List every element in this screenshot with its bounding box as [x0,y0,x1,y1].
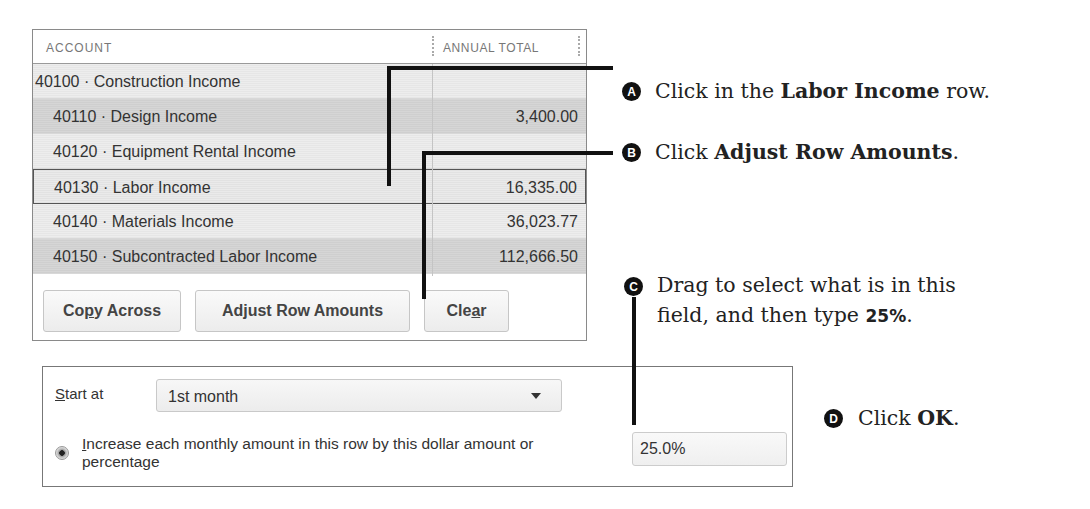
account-name: 40150 · Subcontracted Labor Income [53,248,317,266]
callout-text-c: Drag to select what is in this field, an… [657,270,956,331]
budget-grid-panel: ACCOUNT ANNUAL TOTAL 40100 · Constructio… [32,29,587,341]
start-at-label: Start at [55,385,103,402]
account-name: 40110 · Design Income [53,108,217,126]
grid-rows: 40100 · Construction Income 40110 · Desi… [33,64,586,274]
increase-radio-button[interactable] [55,446,69,460]
callout-badge-d: D [824,409,843,428]
callout-text-line: field, and then type 25%. [657,300,956,331]
callout-text-part: Click [655,140,714,164]
callout-text-a: Click in the Labor Income row. [655,76,990,106]
callout-badge-c: C [624,277,643,296]
copy-across-button[interactable]: Copy Across [43,290,181,332]
column-divider [432,64,433,276]
increase-amount-field[interactable] [632,432,787,466]
mnemonic-key: S [55,385,65,402]
annual-total: 16,335.00 [506,179,577,197]
column-header-account[interactable]: ACCOUNT [46,41,112,55]
callout-badge-a: A [622,82,641,101]
callout-bold-text: Labor Income [781,79,940,103]
mnemonic-key: p [84,302,94,320]
table-row-design-income[interactable]: 40110 · Design Income 3,400.00 [33,99,586,134]
annual-total: 36,023.77 [507,213,578,231]
callout-text-part: . [906,303,913,327]
button-label: r [480,302,486,320]
callout-text-part: . [953,140,960,164]
adjust-row-amounts-panel: Start at 1st month Increase each monthly… [42,366,793,487]
callout-line-a [387,68,391,186]
callout-bold-text: OK [917,406,953,430]
account-name: 40100 · Construction Income [35,73,240,91]
label-text: ncrease each monthly amount in this row … [82,435,533,470]
mnemonic-key: a [471,302,480,320]
callout-text-d: Click OK. [858,403,959,433]
callout-text-part: row. [940,79,990,103]
column-resize-handle[interactable] [432,36,434,56]
column-header-annual-total[interactable]: ANNUAL TOTAL [443,41,539,55]
callout-text-part: field, and then type [657,303,865,327]
increase-amount-input[interactable] [633,433,786,465]
callout-text-part: . [953,406,960,430]
account-name: 40130 · Labor Income [54,179,211,197]
callout-line-a [387,66,613,70]
column-resize-handle[interactable] [578,36,580,56]
callout-line-c [632,297,636,425]
grid-footer: Copy Across Adjust Row Amounts Clear [33,276,586,340]
clear-button[interactable]: Clear [424,290,509,332]
annual-total: 112,666.50 [499,248,578,266]
grid-header: ACCOUNT ANNUAL TOTAL [33,30,586,64]
callout-text-part: Click [858,406,917,430]
account-name: 40140 · Materials Income [53,213,234,231]
adjust-row-amounts-button[interactable]: Adjust Row Amounts [195,290,410,332]
callout-line-b [422,151,613,155]
start-at-value: 1st month [168,388,238,406]
callout-line-b [422,153,426,299]
button-label: Cle [446,302,471,320]
callout-text-part: Click in the [655,79,781,103]
callout-text-b: Click Adjust Row Amounts. [655,137,959,167]
table-row-labor-income[interactable]: 40130 · Labor Income 16,335.00 [33,169,586,204]
callout-bold-text: Adjust Row Amounts [714,140,952,164]
account-name: 40120 · Equipment Rental Income [53,143,296,161]
increase-option-label[interactable]: Increase each monthly amount in this row… [82,435,572,471]
chevron-down-icon[interactable] [531,393,541,399]
callout-bold-text: 25% [865,306,906,326]
callout-badge-b: B [622,143,641,162]
label-text: tart at [65,385,103,402]
annual-total: 3,400.00 [516,108,578,126]
start-at-dropdown[interactable]: 1st month [156,379,562,412]
button-label: Co [63,302,84,320]
table-row-subcontracted-labor-income[interactable]: 40150 · Subcontracted Labor Income 112,6… [33,239,586,274]
table-row-materials-income[interactable]: 40140 · Materials Income 36,023.77 [33,204,586,239]
button-label: y Across [94,302,161,320]
callout-text-line: Drag to select what is in this [657,270,956,300]
